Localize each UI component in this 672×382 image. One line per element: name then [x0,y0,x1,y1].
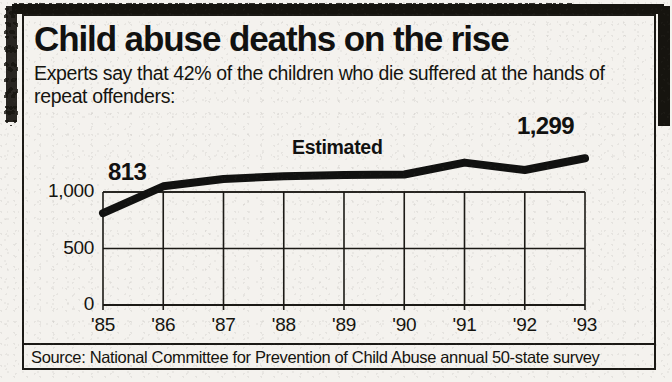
x-axis-tick-label: '86 [133,314,193,336]
chart-gridlines [103,192,585,310]
newspaper-chart-clipping: Child abuse deaths on the rise Experts s… [0,0,672,382]
x-axis-tick-label: '88 [254,314,314,336]
estimated-annotation: Estimated [292,136,383,159]
last-value-label: 1,299 [517,112,574,140]
y-axis-tick-label: 1,000 [12,180,94,202]
x-axis-tick-label: '89 [314,314,374,336]
first-value-label: 813 [108,158,146,186]
x-axis-tick-label: '85 [73,314,133,336]
x-axis-tick-label: '90 [374,314,434,336]
x-axis-tick-label: '92 [495,314,555,336]
x-axis-tick-label: '91 [435,314,495,336]
x-axis-tick-label: '93 [555,314,615,336]
x-axis-tick-label: '87 [194,314,254,336]
y-axis-tick-label: 0 [12,293,94,315]
y-axis-tick-label: 500 [12,237,94,259]
